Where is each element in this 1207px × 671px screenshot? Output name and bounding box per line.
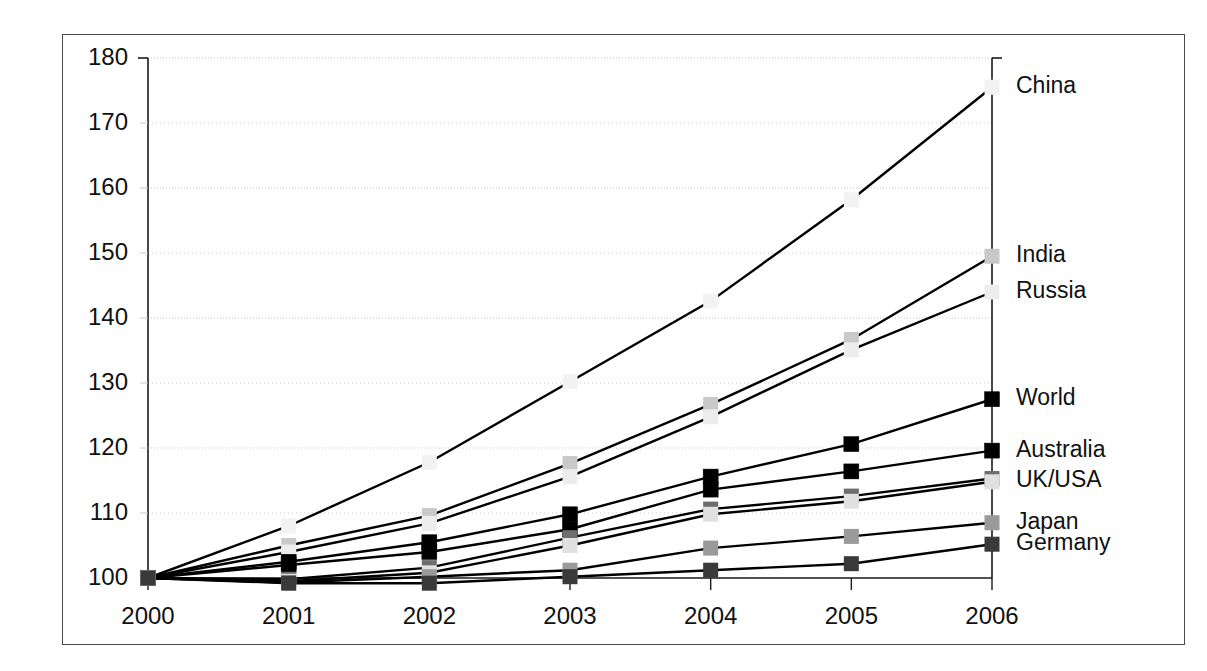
y-tick-label-180: 180	[38, 43, 128, 71]
plot-area-border	[138, 58, 1002, 578]
marker-australia-2004	[703, 482, 718, 497]
marker-germany-2006	[985, 537, 1000, 552]
y-tick-label-140: 140	[38, 303, 128, 331]
marker-india-2006	[985, 249, 1000, 264]
series-line-china	[148, 87, 992, 578]
marker-germany-2000	[141, 571, 156, 586]
y-tick-label-160: 160	[38, 173, 128, 201]
marker-china-2004	[703, 294, 718, 309]
series-label-russia: Russia	[1016, 277, 1086, 304]
marker-australia-2001	[281, 558, 296, 573]
marker-china-2005	[844, 192, 859, 207]
series-label-india: India	[1016, 241, 1066, 268]
x-tick-label-2002: 2002	[369, 602, 489, 630]
marker-china-2006	[985, 80, 1000, 95]
marker-china-2003	[563, 374, 578, 389]
marker-russia-2005	[844, 342, 859, 357]
x-tick-label-2000: 2000	[88, 602, 208, 630]
marker-usa-2005	[844, 494, 859, 509]
x-tick-label-2004: 2004	[651, 602, 771, 630]
series-label-australia: Australia	[1016, 436, 1105, 463]
marker-world-2005	[844, 437, 859, 452]
x-tick-label-2006: 2006	[932, 602, 1052, 630]
marker-china-2001	[281, 519, 296, 534]
marker-china-2002	[422, 455, 437, 470]
marker-australia-2005	[844, 464, 859, 479]
y-tick-label-120: 120	[38, 433, 128, 461]
marker-germany-2002	[422, 576, 437, 591]
marker-russia-2003	[563, 469, 578, 484]
series-label-uk-usa: UK/USA	[1016, 466, 1102, 493]
marker-australia-2002	[422, 545, 437, 560]
marker-usa-2004	[703, 507, 718, 522]
marker-germany-2005	[844, 556, 859, 571]
marker-india-2003	[563, 456, 578, 471]
y-tick-label-130: 130	[38, 368, 128, 396]
marker-usa-2003	[563, 538, 578, 553]
line-chart-svg	[0, 0, 1207, 671]
marker-japan-2004	[703, 541, 718, 556]
series-label-world: World	[1016, 384, 1076, 411]
x-tick-label-2001: 2001	[229, 602, 349, 630]
series-label-germany: Germany	[1016, 529, 1111, 556]
marker-germany-2003	[563, 569, 578, 584]
marker-world-2006	[985, 392, 1000, 407]
marker-germany-2004	[703, 563, 718, 578]
y-tick-label-100: 100	[38, 563, 128, 591]
marker-world-2003	[563, 507, 578, 522]
chart-page: 100110120130140150160170180 200020012002…	[0, 0, 1207, 671]
series-label-china: China	[1016, 72, 1076, 99]
x-tick-label-2003: 2003	[510, 602, 630, 630]
marker-japan-2005	[844, 529, 859, 544]
marker-russia-2002	[422, 516, 437, 531]
series-markers-group	[141, 80, 1000, 591]
marker-japan-2006	[985, 515, 1000, 530]
y-tick-label-110: 110	[38, 498, 128, 526]
y-tick-label-150: 150	[38, 238, 128, 266]
marker-germany-2001	[281, 576, 296, 591]
chart-canvas	[0, 0, 1207, 671]
marker-russia-2006	[985, 285, 1000, 300]
marker-russia-2004	[703, 409, 718, 424]
x-tick-label-2005: 2005	[791, 602, 911, 630]
gridlines-group	[148, 58, 992, 513]
y-tick-label-170: 170	[38, 108, 128, 136]
marker-australia-2006	[985, 443, 1000, 458]
marker-usa-2006	[985, 474, 1000, 489]
